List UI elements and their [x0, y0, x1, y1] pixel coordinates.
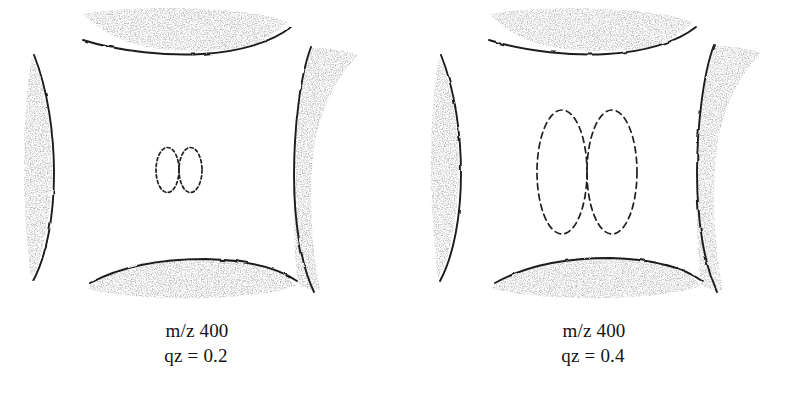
caption-line-qz: qz = 0.2 — [0, 343, 396, 368]
ion-trap-diagram-left — [0, 0, 396, 320]
caption-line-mz: m/z 400 — [395, 318, 793, 343]
panel-caption-left: m/z 400 qz = 0.2 — [0, 318, 396, 368]
panel-caption-right: m/z 400 qz = 0.4 — [397, 318, 793, 368]
ion-cloud-contour — [156, 148, 202, 193]
electrode-endcap-top — [489, 8, 696, 54]
electrode-ring-left — [431, 55, 461, 281]
caption-line-qz: qz = 0.4 — [393, 343, 793, 368]
caption-line-mz: m/z 400 — [0, 318, 396, 343]
electrode-ring-right — [697, 45, 761, 292]
figure-root: m/z 400 qz = 0.2 — [0, 0, 793, 395]
ion-trap-panel-right: m/z 400 qz = 0.4 — [397, 0, 793, 395]
electrode-ring-left — [24, 55, 54, 281]
electrode-endcap-bottom — [86, 258, 297, 298]
electrode-ring-right — [294, 47, 358, 292]
ion-trap-diagram-right — [397, 0, 793, 320]
ion-cloud-contour — [537, 110, 637, 234]
electrode-endcap-top — [83, 8, 291, 54]
electrode-endcap-bottom — [491, 257, 702, 298]
ion-trap-panel-left: m/z 400 qz = 0.2 — [0, 0, 396, 395]
